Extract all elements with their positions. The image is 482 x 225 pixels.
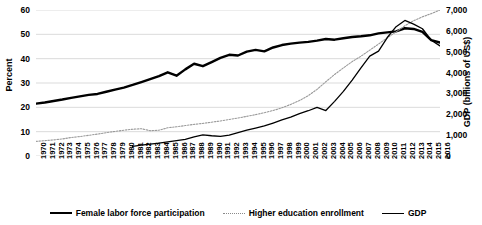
legend-swatch-icon	[50, 212, 72, 214]
y-axis-right-title: GDP (billions of US$)	[462, 20, 472, 145]
legend-item[interactable]: GDP	[382, 208, 426, 218]
y-tick-label-right: 3,000	[446, 88, 480, 98]
legend-label: Female labor force participation	[76, 208, 205, 218]
legend-swatch-icon	[223, 213, 245, 214]
y-tick-label-left: 40	[6, 54, 30, 64]
series-line	[36, 28, 440, 103]
series-line	[36, 10, 440, 141]
series-line	[133, 20, 440, 146]
legend-item[interactable]: Female labor force participation	[50, 208, 205, 218]
y-tick-label-right: 2,000	[446, 109, 480, 119]
chart-container: Percent GDP (billions of US$) 6050403020…	[0, 0, 482, 225]
y-tick-label-left: 20	[6, 102, 30, 112]
y-tick-label-right: 5,000	[446, 47, 480, 57]
x-tick-label: 2016	[443, 142, 452, 159]
legend-label: Higher education enrollment	[249, 208, 364, 218]
y-tick-label-left: 50	[6, 29, 30, 39]
y-tick-label-right: 4,000	[446, 68, 480, 78]
y-tick-label-right: 1,000	[446, 130, 480, 140]
plot-area	[36, 10, 440, 156]
legend-item[interactable]: Higher education enrollment	[223, 208, 364, 218]
legend-label: GDP	[408, 208, 426, 218]
chart-svg	[36, 10, 440, 156]
y-tick-label-left: 60	[6, 5, 30, 15]
y-axis-left-title: Percent	[4, 40, 14, 110]
chart-legend: Female labor force participationHigher e…	[36, 205, 440, 221]
y-tick-label-left: 10	[6, 127, 30, 137]
legend-swatch-icon	[382, 213, 404, 214]
y-tick-label-right: 7,000	[446, 5, 480, 15]
y-tick-label-left: 0	[6, 151, 30, 161]
y-tick-label-right: 6,000	[446, 26, 480, 36]
series-lines	[36, 10, 440, 146]
y-tick-label-left: 30	[6, 78, 30, 88]
